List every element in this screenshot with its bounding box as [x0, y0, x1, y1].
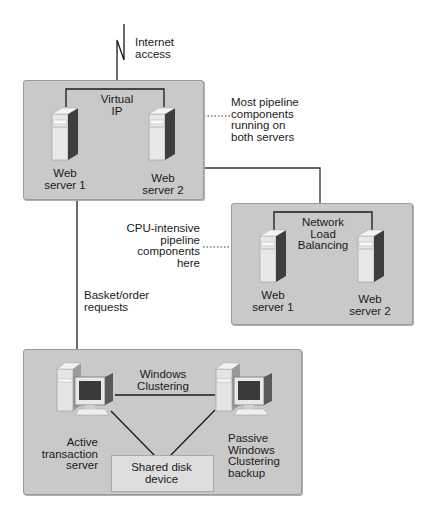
shared-disk-label: Shared disk device	[111, 462, 212, 485]
windows-clustering-label: Windows Clustering	[125, 369, 201, 392]
farm-to-nlb-connector	[203, 168, 320, 204]
workstation-icon	[214, 359, 276, 419]
nlb-web-server-2-label: Web server 2	[340, 294, 400, 317]
web-server-1-label: Web server 1	[35, 168, 95, 191]
passive-backup-label: Passive Windows Clustering backup	[228, 433, 280, 479]
active-transaction-server-label: Active transaction server	[30, 437, 98, 472]
cpu-intensive-annotation: CPU-intensive pipeline components here	[110, 223, 200, 269]
virtual-ip-label: Virtual IP	[90, 94, 144, 117]
workstation-icon	[55, 359, 117, 419]
basket-order-requests-label: Basket/order requests	[84, 290, 149, 313]
server-tower-icon	[147, 106, 179, 162]
nlb-label: Network Load Balancing	[292, 217, 354, 252]
server-tower-icon	[356, 228, 388, 284]
server-tower-icon	[50, 106, 82, 162]
nlb-web-server-1-label: Web server 1	[243, 290, 303, 313]
internet-access-label: Internet access	[135, 37, 174, 60]
web-server-2-label: Web server 2	[133, 173, 193, 196]
pipeline-annotation: Most pipeline components running on both…	[231, 97, 299, 143]
server-tower-icon	[258, 228, 290, 284]
